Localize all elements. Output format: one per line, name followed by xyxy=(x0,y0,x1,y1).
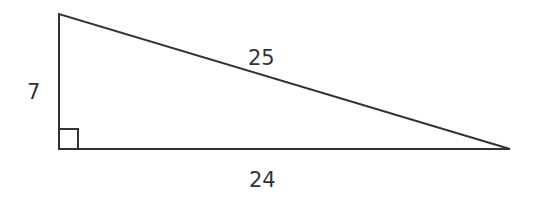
hypotenuse-label: 25 xyxy=(248,46,275,70)
vertical-leg-label: 7 xyxy=(27,80,40,104)
right-angle-marker xyxy=(59,129,78,149)
right-triangle xyxy=(59,14,510,149)
triangle-diagram: 7 25 24 xyxy=(0,0,535,197)
horizontal-leg-label: 24 xyxy=(249,168,276,192)
